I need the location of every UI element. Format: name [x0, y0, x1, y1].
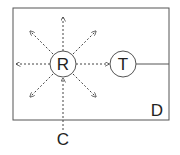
arrow-lower-right — [73, 74, 96, 97]
arrow-upper-left — [30, 31, 53, 54]
container-d-label: D — [151, 101, 163, 120]
arrow-upper-right — [73, 31, 96, 54]
node-r-label: R — [57, 55, 69, 74]
arrow-lower-left — [30, 74, 53, 97]
external-c-label: C — [57, 130, 69, 149]
diagram: R T D C — [0, 0, 180, 155]
node-t-label: T — [118, 55, 128, 74]
